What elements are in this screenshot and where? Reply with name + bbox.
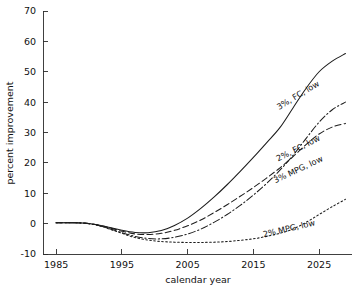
y-tick-label: 20 <box>24 157 36 168</box>
y-axis-title: percent improvement <box>4 81 15 184</box>
x-axis-ticks: 19851995200520152025 <box>44 249 331 270</box>
series-labels-group: 3%, FC, low2%, FC, low3% MPG, low2% MPG,… <box>262 78 325 239</box>
y-tick-label: 70 <box>24 5 36 16</box>
y-tick-label: 30 <box>24 127 36 138</box>
x-tick-label: 2005 <box>176 259 200 270</box>
x-axis-title: calendar year <box>165 274 231 285</box>
x-tick-label: 1985 <box>44 259 68 270</box>
y-tick-label: 10 <box>24 188 36 199</box>
series-label: 2% MPG, low <box>262 217 316 239</box>
y-tick-label: 40 <box>24 97 36 108</box>
y-tick-label: 50 <box>24 66 36 77</box>
y-tick-label: 0 <box>30 218 36 229</box>
line-chart: -10010203040506070 19851995200520152025 … <box>0 0 356 286</box>
x-tick-label: 2015 <box>241 259 265 270</box>
x-tick-label: 2025 <box>307 259 331 270</box>
y-tick-label: 60 <box>24 36 36 47</box>
axes-group <box>43 11 352 254</box>
series-label: 3%, FC, low <box>275 78 321 111</box>
x-tick-label: 1995 <box>110 259 134 270</box>
chart-container: -10010203040506070 19851995200520152025 … <box>0 0 356 286</box>
y-tick-label: -10 <box>20 248 36 259</box>
y-axis-ticks: -10010203040506070 <box>20 5 48 259</box>
